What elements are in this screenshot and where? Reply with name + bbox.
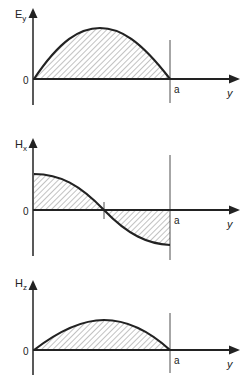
hz-a-label: a (174, 355, 180, 366)
ey-vertical-arrow-icon (29, 8, 38, 18)
hx-horizontal-arrow-icon (229, 206, 240, 215)
ey-label: Ey (15, 8, 26, 23)
panel-hz: Hz 0 a y (15, 277, 240, 375)
ey-y-label: y (226, 87, 234, 99)
field-diagram: Ey 0 a y Hx 0 a y Hz 0 a y (0, 0, 246, 386)
hx-y-label: y (226, 218, 234, 230)
hz-y-label: y (226, 358, 234, 370)
hx-a-label: a (174, 215, 180, 226)
hx-label: Hx (15, 138, 27, 153)
ey-origin-label: 0 (23, 75, 29, 86)
hz-vertical-arrow-icon (29, 280, 38, 290)
hz-origin-label: 0 (23, 346, 29, 357)
ey-a-label: a (174, 84, 180, 95)
panel-ey: Ey 0 a y (15, 8, 240, 105)
panel-hx: Hx 0 a y (15, 138, 240, 260)
hz-horizontal-arrow-icon (229, 346, 240, 355)
hz-label: Hz (15, 277, 27, 292)
hx-origin-label: 0 (23, 206, 29, 217)
hx-vertical-arrow-icon (29, 138, 38, 148)
ey-horizontal-arrow-icon (229, 75, 240, 84)
